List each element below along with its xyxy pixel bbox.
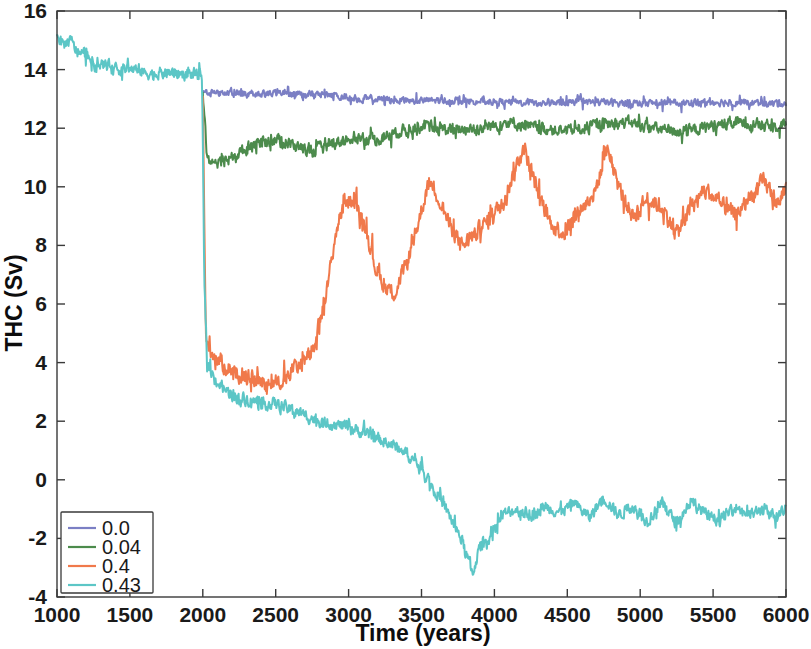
y-tick-label: 12 — [24, 116, 47, 139]
x-tick-label: 5500 — [690, 603, 737, 626]
y-tick-label: -2 — [28, 526, 47, 549]
y-tick-label: 4 — [35, 351, 47, 374]
x-tick-label: 1500 — [107, 603, 154, 626]
x-tick-label: 2500 — [252, 603, 299, 626]
legend-label-0-43: 0.43 — [102, 574, 141, 596]
figure-canvas: 1000150020002500300035004000450050005500… — [0, 0, 811, 649]
y-tick-label: 14 — [24, 58, 48, 81]
y-axis-title: THC (Sv) — [1, 254, 27, 351]
x-tick-label: 5000 — [617, 603, 664, 626]
y-tick-label: 6 — [35, 292, 47, 315]
x-axis-title: Time (years) — [355, 620, 490, 646]
y-tick-label: -4 — [28, 585, 47, 608]
y-tick-label: 2 — [35, 409, 47, 432]
x-tick-label: 2000 — [179, 603, 226, 626]
chart-legend: 0.00.040.40.43 — [61, 512, 153, 596]
thc-timeseries-chart: 1000150020002500300035004000450050005500… — [0, 0, 811, 649]
y-tick-label: 8 — [35, 233, 47, 256]
y-tick-label: 0 — [35, 468, 47, 491]
y-tick-label: 16 — [24, 0, 47, 22]
x-tick-label: 6000 — [763, 603, 810, 626]
y-tick-label: 10 — [24, 175, 47, 198]
x-tick-label: 4500 — [544, 603, 591, 626]
